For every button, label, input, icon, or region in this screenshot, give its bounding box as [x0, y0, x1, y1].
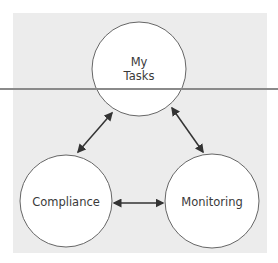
- edge-mytasks-monitoring: [172, 108, 203, 152]
- divider-line: [0, 88, 278, 90]
- label-monitoring: Monitoring: [172, 195, 252, 209]
- label-compliance: Compliance: [26, 195, 106, 209]
- label-my-tasks-line2: Tasks: [109, 69, 169, 83]
- label-my-tasks: My Tasks: [109, 55, 169, 83]
- diagram-canvas: [0, 0, 278, 263]
- edge-mytasks-compliance: [78, 113, 112, 152]
- label-my-tasks-line1: My: [109, 55, 169, 69]
